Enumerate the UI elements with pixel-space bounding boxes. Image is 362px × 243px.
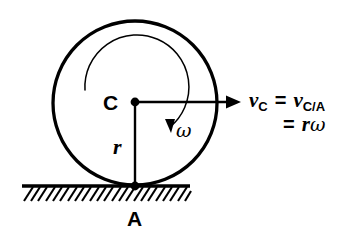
equation-rhs-subscript: C/A — [303, 99, 325, 114]
equation-rhs-symbol: v — [293, 88, 302, 113]
contact-point-dot — [131, 182, 140, 191]
radius-label: r — [113, 136, 122, 158]
contact-point-label: A — [127, 208, 142, 229]
equation-lhs-subscript: C — [258, 99, 267, 114]
equation-line-1: vC = vC/A — [249, 88, 325, 112]
equation-equals-1: = — [275, 89, 287, 112]
equation-radius-symbol: r — [302, 112, 310, 137]
equation-omega-symbol: ω — [310, 113, 326, 135]
ground-hatching — [24, 187, 191, 201]
center-point-dot — [131, 98, 140, 107]
angular-velocity-arrowhead — [165, 119, 175, 133]
center-point-label: C — [103, 92, 118, 113]
equation-equals-2: = — [283, 113, 295, 136]
equation-lhs-symbol: v — [249, 88, 258, 113]
velocity-equation: vC = vC/A = rω — [249, 88, 325, 136]
angular-velocity-arc — [85, 35, 189, 127]
velocity-vector-arrowhead — [226, 96, 241, 109]
equation-line-2: = rω — [249, 112, 325, 136]
angular-velocity-label: ω — [176, 121, 192, 140]
rolling-wheel-diagram: C r ω A vC = vC/A = rω — [0, 0, 362, 243]
